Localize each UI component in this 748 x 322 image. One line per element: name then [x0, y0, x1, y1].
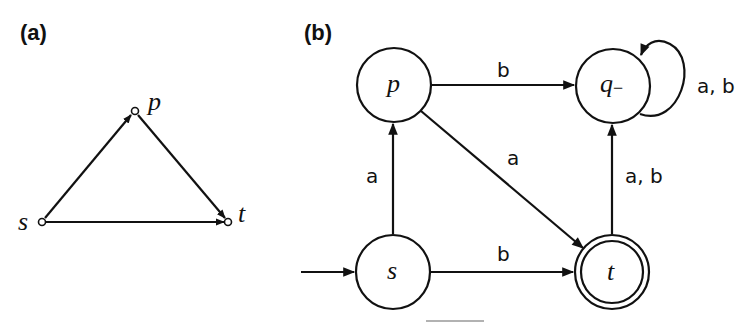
edge-p-to-t [138, 115, 225, 218]
transition-p-to-q-label: b [497, 58, 510, 82]
state-p-label: p [385, 69, 400, 98]
panel-a-label: (a) [20, 20, 47, 45]
diagram-canvas: (a) s p t (b) b a a b a, b a, b [0, 0, 748, 322]
transition-p-to-t-label: a [507, 146, 519, 170]
vertex-s-label: s [18, 207, 28, 236]
state-s-label: s [387, 256, 397, 285]
transition-t-to-q-label: a, b [625, 164, 663, 188]
transition-s-to-p-label: a [366, 164, 378, 188]
transition-p-to-t [421, 111, 583, 248]
vertex-p-label: p [146, 87, 161, 116]
vertex-t-label: t [238, 199, 246, 228]
transition-q-self-loop-label: a, b [697, 74, 735, 98]
transition-s-to-t-label: b [497, 242, 510, 266]
panel-b: (b) b a a b a, b a, b p q− s t [301, 20, 735, 309]
state-t-label: t [607, 257, 615, 286]
vertex-t [225, 219, 232, 226]
vertex-p [132, 108, 139, 115]
vertex-s [39, 219, 46, 226]
panel-b-label: (b) [304, 20, 332, 45]
panel-a: (a) s p t [18, 20, 246, 236]
edge-s-to-p [45, 115, 131, 218]
